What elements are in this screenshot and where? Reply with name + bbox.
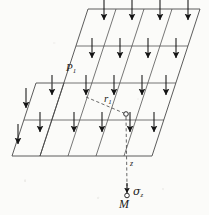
diagram-canvas — [0, 0, 209, 215]
label-radial-distance-r: r1 — [104, 93, 112, 106]
grid-column-lines — [68, 9, 172, 156]
load-arrow-group-row-2 — [92, 38, 176, 58]
label-point-M: M — [119, 198, 129, 210]
left-panel-outline — [12, 83, 64, 156]
label-load-P: P1 — [66, 62, 76, 75]
soil-stress-diagram: P1 r1 z σz M — [0, 0, 209, 215]
load-arrow-group-row-3 — [52, 75, 166, 95]
load-arrow-group-row-4 — [40, 112, 154, 132]
label-depth-z: z — [130, 160, 133, 168]
depth-axis-line — [126, 117, 127, 186]
surface-point-marker — [124, 112, 129, 117]
label-stress-sigma-z: σz — [133, 186, 143, 199]
load-arrow-group-row-1 — [104, 0, 188, 20]
